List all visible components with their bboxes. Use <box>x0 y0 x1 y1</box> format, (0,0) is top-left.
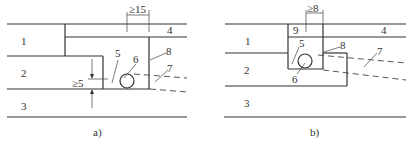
label-7: 7 <box>377 45 383 57</box>
pipe-circle <box>120 74 134 88</box>
caption-b: b) <box>310 126 320 139</box>
dim-label-top: ≥15 <box>129 3 147 15</box>
dashed-line <box>134 74 187 78</box>
label-9: 9 <box>293 24 299 36</box>
dashed-line <box>150 89 187 92</box>
dim-label-side: ≥5 <box>72 77 84 89</box>
leader-8 <box>324 47 340 52</box>
label-4: 4 <box>167 24 173 36</box>
label-7: 7 <box>167 62 173 74</box>
label-3: 3 <box>244 97 250 109</box>
label-8: 8 <box>166 45 172 57</box>
figure-b: ≥8 1 2 3 4 5 6 7 8 9 b) <box>224 2 406 139</box>
dim-label-top: ≥8 <box>307 2 319 14</box>
arrow-head <box>90 74 94 79</box>
leader-5 <box>112 60 118 83</box>
diagram-canvas: ≥15 ≥5 1 2 3 4 5 6 7 8 a) <box>0 0 411 144</box>
label-8: 8 <box>340 39 346 51</box>
label-4: 4 <box>381 24 387 36</box>
label-1: 1 <box>21 35 27 47</box>
label-6: 6 <box>292 73 298 85</box>
dashed-line <box>318 55 406 63</box>
pipe-circle <box>298 54 312 68</box>
label-6: 6 <box>133 53 139 65</box>
leader-6 <box>124 64 136 78</box>
leader-7 <box>364 53 377 67</box>
label-3: 3 <box>21 100 27 112</box>
label-5: 5 <box>299 37 305 49</box>
figure-a: ≥15 ≥5 1 2 3 4 5 6 7 8 a) <box>7 3 187 139</box>
leader-8 <box>150 53 166 60</box>
dashed-line <box>323 70 406 80</box>
caption-a: a) <box>93 126 102 139</box>
label-2: 2 <box>244 64 250 76</box>
label-1: 1 <box>245 35 251 47</box>
label-2: 2 <box>21 67 27 79</box>
label-5: 5 <box>115 47 121 59</box>
arrow-head <box>90 89 94 94</box>
